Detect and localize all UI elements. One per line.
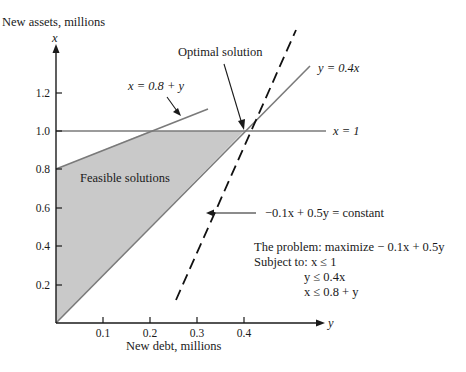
optimal-solution-label: Optimal solution <box>178 45 263 59</box>
optimal-arrow-head-icon <box>238 119 245 130</box>
htick-0.3: 0.3 <box>190 327 205 339</box>
htick-0.4: 0.4 <box>237 327 252 339</box>
problem-line-4: x ≤ 0.8 + y <box>304 285 359 299</box>
vtick-1.2: 1.2 <box>36 87 51 99</box>
objective-label: −0.1x + 0.5y = constant <box>265 206 385 220</box>
optimal-arrow <box>224 64 242 124</box>
vertical-axis-title: New assets, millions <box>2 15 105 29</box>
vertical-axis-var: x <box>51 31 58 45</box>
line-x1-label: x = 1 <box>332 124 359 138</box>
vtick-0.8: 0.8 <box>36 163 51 175</box>
vtick-1.0: 1.0 <box>36 125 51 137</box>
horizontal-axis-title: New debt, millions <box>126 339 222 353</box>
horizontal-ticks <box>103 317 244 323</box>
line-x08y-label: x = 0.8 + y <box>127 79 185 93</box>
objective-arrow-head-icon <box>206 210 214 217</box>
problem-line-1: The problem: maximize − 0.1x + 0.5y <box>254 240 445 254</box>
vtick-0.4: 0.4 <box>36 240 51 252</box>
htick-0.1: 0.1 <box>96 327 111 339</box>
line-x08y-arrow <box>167 97 177 111</box>
problem-line-3: y ≤ 0.4x <box>304 270 346 284</box>
line-x08y-arrow-head-icon <box>173 108 181 116</box>
feasible-solutions-label: Feasible solutions <box>80 171 170 185</box>
htick-0.2: 0.2 <box>143 327 158 339</box>
horizontal-axis-arrow-icon <box>316 320 325 327</box>
horizontal-axis-var: y <box>326 316 334 330</box>
problem-line-2: Subject to: x ≤ 1 <box>254 255 337 269</box>
vtick-0.6: 0.6 <box>36 202 51 214</box>
line-y04x-label: y = 0.4x <box>316 61 360 75</box>
lp-diagram: 0.2 0.4 0.6 0.8 1.0 1.2 0.1 0.2 0.3 0.4 … <box>0 0 466 372</box>
vertical-axis-arrow-icon <box>53 44 60 53</box>
vtick-0.2: 0.2 <box>36 279 51 291</box>
